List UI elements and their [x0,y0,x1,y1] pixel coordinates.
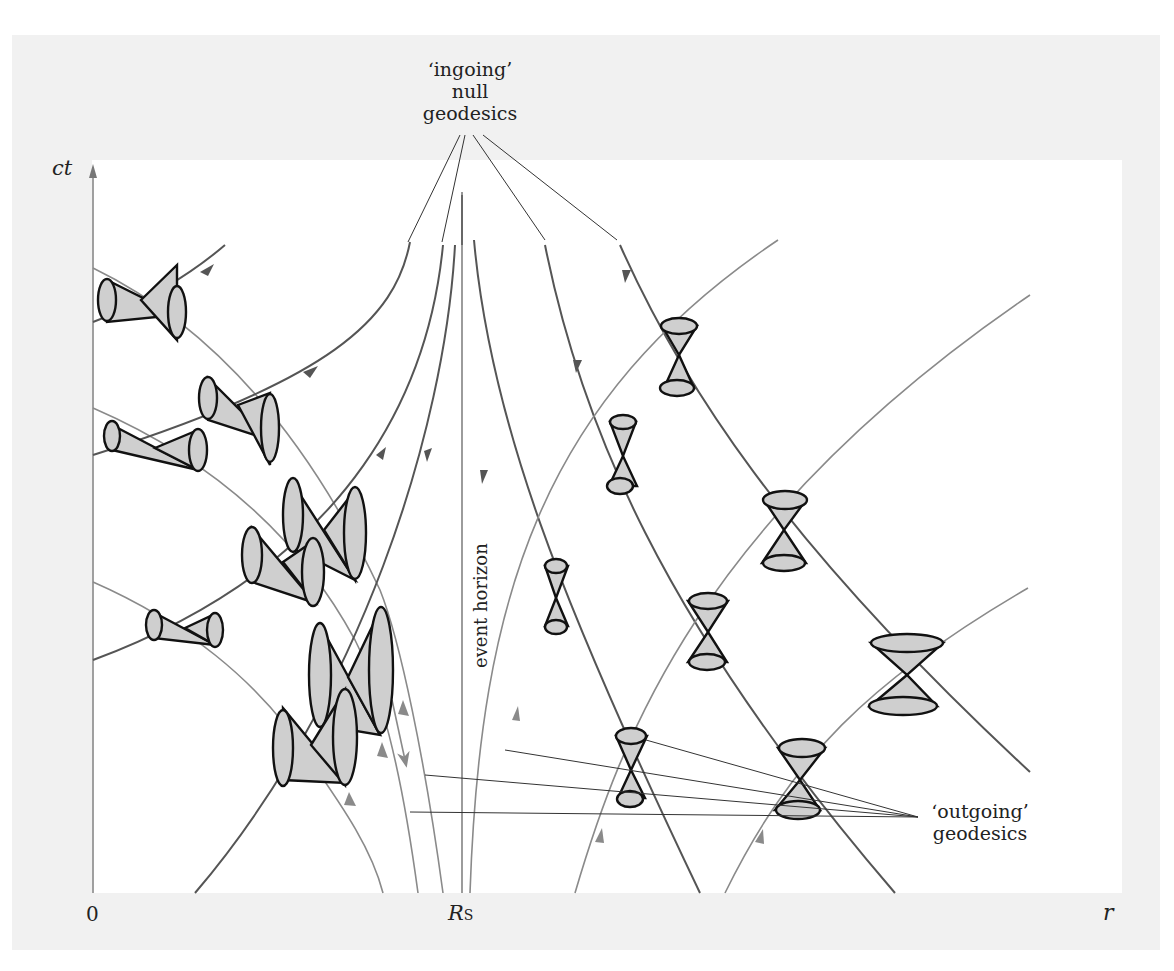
rs-label-subscript: S [464,907,474,923]
ingoing-label-line1: ‘ingoing’ [415,58,525,80]
light-cones-outside [545,318,943,819]
arrow-icon [376,447,386,460]
arrow-icon [622,270,631,283]
arrow-icon [424,448,432,462]
arrow-icon [377,742,388,758]
geodesic-out-outside-3 [725,588,1028,893]
arrow-icon [344,792,356,806]
outgoing-label: ‘outgoing’ geodesics [920,800,1040,844]
arrow-icon [200,264,214,276]
light-cone [607,415,637,494]
rs-label: RS [448,902,473,926]
ingoing-label: ‘ingoing’ null geodesics [415,58,525,124]
light-cone [104,421,207,471]
y-axis-label: ct [52,157,72,179]
arrow-icon [480,470,488,484]
ingoing-label-line2: null [415,80,525,102]
light-cone [545,559,568,634]
ingoing-label-line3: geodesics [415,102,525,124]
light-cone [146,610,223,647]
event-horizon-label: event horizon [470,543,491,668]
x-axis-label: r [1103,902,1114,924]
axes [89,164,97,893]
light-cone [660,318,697,396]
outgoing-label-line1: ‘outgoing’ [920,800,1040,822]
light-cone [199,377,279,465]
arrow-icon [512,706,520,721]
light-cones-inside [98,265,393,786]
arrow-icon [398,700,409,716]
light-cone [98,265,186,340]
origin-label: 0 [86,903,99,925]
arrow-icon [595,828,604,843]
outgoing-label-line2: geodesics [920,822,1040,844]
light-cone [688,593,728,670]
ct-axis-arrow-icon [89,164,97,178]
light-cone [869,634,943,715]
rs-label-main: R [448,901,464,925]
